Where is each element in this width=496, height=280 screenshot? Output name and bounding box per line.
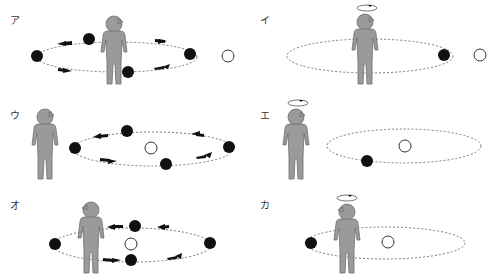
- satellite-ball: [160, 158, 172, 170]
- panel-ka: カ: [250, 185, 496, 280]
- panel-a: ア: [0, 0, 250, 95]
- orbit-diagram: [250, 185, 496, 280]
- satellite-ball: [129, 220, 141, 232]
- satellite-ball: [204, 237, 216, 249]
- orbit-diagram: [0, 185, 250, 280]
- open-circle: [474, 49, 486, 61]
- orbit-diagram: [250, 95, 496, 190]
- person-icon: [352, 14, 378, 84]
- orbit-diagram: [0, 0, 250, 95]
- satellite-ball: [31, 50, 43, 62]
- open-circle: [145, 142, 157, 154]
- person-icon: [283, 109, 309, 179]
- panel-o: オ: [0, 185, 250, 280]
- satellite-ball: [83, 33, 95, 45]
- rotation-arrow-icon: [337, 195, 357, 201]
- open-circle: [382, 236, 394, 248]
- panel-e: エ: [250, 95, 496, 190]
- satellite-ball: [305, 237, 317, 249]
- rotation-arrow-icon: [288, 100, 308, 106]
- satellite-ball: [69, 142, 81, 154]
- orbit-diagram: [0, 95, 250, 190]
- person-icon: [78, 202, 104, 273]
- satellite-ball: [223, 141, 235, 153]
- panel-u: ウ: [0, 95, 250, 190]
- panel-i: イ: [250, 0, 496, 95]
- person-icon: [334, 204, 360, 273]
- orbit-diagram: [250, 0, 496, 95]
- satellite-ball: [121, 125, 133, 137]
- open-circle: [222, 50, 234, 62]
- satellite-ball: [184, 48, 196, 60]
- open-circle: [399, 140, 411, 152]
- satellite-ball: [125, 254, 137, 266]
- person-icon: [32, 109, 58, 179]
- satellite-ball: [438, 49, 450, 61]
- satellite-ball: [49, 238, 61, 250]
- rotation-arrow-icon: [357, 5, 377, 11]
- satellite-ball: [122, 66, 134, 78]
- open-circle: [125, 238, 137, 250]
- satellite-ball: [361, 155, 373, 167]
